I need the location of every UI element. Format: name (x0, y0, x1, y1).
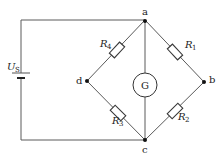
svg-text:2: 2 (185, 116, 189, 124)
svg-text:3: 3 (119, 120, 123, 128)
label-r2: R 2 (177, 111, 189, 124)
svg-text:4: 4 (107, 43, 112, 51)
node-a (143, 19, 147, 23)
label-r4: R 4 (99, 38, 112, 51)
svg-text:G: G (141, 80, 149, 91)
svg-text:1: 1 (192, 44, 196, 52)
node-label-b: b (209, 74, 215, 85)
node-b (202, 80, 206, 84)
node-c (143, 138, 147, 142)
svg-text:S: S (15, 66, 20, 74)
wheatstone-bridge-diagram: U S R 4 R 1 R 3 R 2 G a b c d (0, 0, 223, 161)
source-label: U S (7, 61, 20, 74)
source-loop-wires (21, 20, 145, 140)
label-r1: R 1 (184, 39, 196, 52)
resistor-r1 (167, 44, 182, 60)
node-label-c: c (142, 144, 148, 155)
node-d (85, 79, 89, 83)
galvanometer: G (133, 73, 157, 97)
node-label-a: a (142, 6, 148, 17)
resistor-r4 (109, 42, 124, 58)
node-label-d: d (76, 75, 83, 86)
